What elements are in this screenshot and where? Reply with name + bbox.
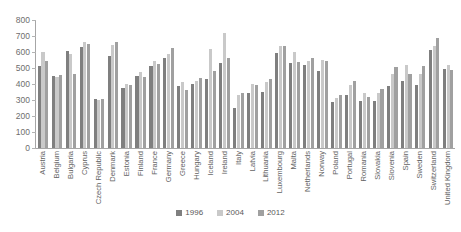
x-axis-label: Slovenia	[388, 151, 396, 180]
bar	[335, 98, 338, 148]
bar-group	[413, 20, 427, 148]
x-axis-label: Poland	[333, 151, 341, 175]
bar	[219, 63, 222, 148]
bar	[283, 46, 286, 148]
bar	[401, 81, 404, 148]
bar	[111, 45, 114, 148]
bar	[415, 85, 418, 148]
bar	[213, 71, 216, 148]
bar	[121, 88, 124, 148]
bar	[443, 69, 446, 148]
bar	[387, 86, 390, 148]
x-axis-label-cell: Italy	[232, 149, 246, 207]
bar-group	[399, 20, 413, 148]
bar	[433, 46, 436, 148]
bar	[41, 52, 44, 148]
bar-group	[120, 20, 134, 148]
bar	[59, 75, 62, 148]
x-axis-label: Czech Republic	[95, 151, 103, 204]
x-axis-label-cell: Denmark	[106, 149, 120, 207]
bar	[422, 66, 425, 148]
bar-group	[162, 20, 176, 148]
bar-group	[106, 20, 120, 148]
x-axis-label-cell: Norway	[315, 149, 329, 207]
legend-swatch	[217, 210, 223, 216]
bar	[269, 79, 272, 148]
bar	[233, 108, 236, 148]
x-axis-label-cell: Slovenia	[385, 149, 399, 207]
y-axis-tick-label: 200	[4, 112, 30, 121]
bar	[191, 84, 194, 148]
legend-item: 1996	[176, 209, 203, 217]
y-axis-tick-label: 600	[4, 48, 30, 57]
bar	[391, 74, 394, 148]
bar	[289, 63, 292, 148]
bar	[363, 93, 366, 148]
bar-chart: 8007006005004003002001000 AustriaBelgium…	[0, 0, 461, 232]
bar-group	[315, 20, 329, 148]
bar	[325, 61, 328, 148]
x-axis-label: Latvia	[249, 151, 257, 171]
bar-group	[371, 20, 385, 148]
bar	[205, 79, 208, 148]
bar-group	[92, 20, 106, 148]
y-axis-tick-label: 700	[4, 32, 30, 41]
bar	[101, 99, 104, 148]
bar-group	[64, 20, 78, 148]
bar	[408, 74, 411, 148]
bar	[87, 44, 90, 148]
x-axis-label-cell: Poland	[329, 149, 343, 207]
bar	[247, 93, 250, 148]
bar	[125, 84, 128, 148]
x-axis-label-cell: Netherlands	[301, 149, 315, 207]
bar	[80, 47, 83, 148]
bar-group	[301, 20, 315, 148]
legend-swatch	[258, 210, 264, 216]
x-axis-label-cell: France	[148, 149, 162, 207]
x-axis-label: Germany	[165, 151, 173, 182]
bar	[181, 82, 184, 148]
x-axis-label-cell: Finland	[134, 149, 148, 207]
x-axis-label: Bulgaria	[67, 151, 75, 179]
bar-group	[357, 20, 371, 148]
bar	[345, 95, 348, 148]
bar	[255, 85, 258, 148]
x-axis-label-cell: Romania	[357, 149, 371, 207]
x-axis-label-cell: Sweden	[413, 149, 427, 207]
x-axis-label-cell: Bulgaria	[64, 149, 78, 207]
bar	[353, 81, 356, 148]
bar	[139, 72, 142, 148]
bar	[251, 84, 254, 148]
x-axis-label-cell: Slovakia	[371, 149, 385, 207]
bar	[167, 54, 170, 148]
bar	[157, 64, 160, 148]
bar	[153, 61, 156, 148]
bar	[429, 50, 432, 148]
plot-area	[36, 20, 455, 148]
bar	[297, 62, 300, 148]
bar	[108, 56, 111, 148]
legend-item: 2004	[217, 209, 244, 217]
x-axis-label-cell: Lithuania	[260, 149, 274, 207]
x-axis-label-cell: Portugal	[343, 149, 357, 207]
x-axis-label-cell: Austria	[36, 149, 50, 207]
x-axis-label-cell: Germany	[162, 149, 176, 207]
bar	[405, 65, 408, 148]
bar	[69, 54, 72, 148]
bar-group	[329, 20, 343, 148]
bar	[303, 65, 306, 148]
bar-group	[190, 20, 204, 148]
x-axis-label-cell: Spain	[399, 149, 413, 207]
bar	[129, 85, 132, 148]
x-axis-label: Norway	[319, 151, 327, 177]
bar	[394, 67, 397, 148]
bar	[223, 33, 226, 148]
x-axis-label-cell: Luxembourg	[273, 149, 287, 207]
x-axis-label: France	[151, 151, 159, 175]
legend-label: 2012	[267, 209, 285, 217]
bar	[380, 89, 383, 148]
x-axis-label: Sweden	[416, 151, 424, 178]
x-axis-label: Romania	[360, 151, 368, 181]
legend-label: 2004	[226, 209, 244, 217]
bar	[447, 65, 450, 148]
